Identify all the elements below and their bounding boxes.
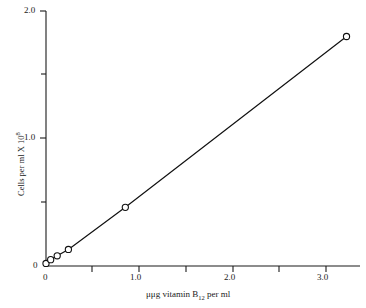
data-point-marker [48,257,54,263]
data-series-line [46,37,347,264]
x-tick-label-2-0: 2.0 [224,272,235,282]
x-axis-ticks [92,266,326,272]
data-point-marker [54,253,60,259]
y-axis-label-exponent: 8 [14,132,21,135]
data-point-marker [65,246,71,252]
x-axis-label: μμg vitamin B12 per ml [146,289,230,301]
data-point-marker [122,204,128,210]
x-axis-label-suffix: per ml [205,289,231,299]
y-tick-label-2-0: 2.0 [24,5,35,15]
data-point-marker [343,33,349,39]
x-tick-label-3-0: 3.0 [317,272,328,282]
y-axis-label: Cells per ml X 108 [14,132,26,196]
data-point-markers [43,33,350,266]
x-tick-label-1-0: 1.0 [130,272,141,282]
x-axis-label-text: μμg vitamin B [146,289,198,299]
chart-figure: 2.0 1.0 0 0 1.0 2.0 3.0 Cells per ml X 1… [0,0,366,308]
calibration-curve-plot [0,0,366,308]
axis-lines [46,11,360,266]
y-axis-ticks [40,11,46,202]
y-axis-label-text: Cells per ml X 10 [16,136,26,196]
x-tick-label-0: 0 [43,272,48,282]
y-tick-label-0: 0 [33,260,38,270]
